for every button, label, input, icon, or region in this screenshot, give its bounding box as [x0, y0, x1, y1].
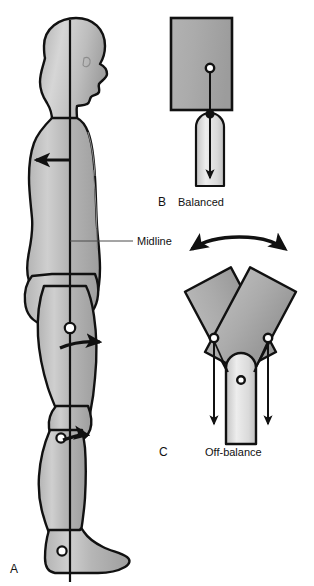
- torso-silhouette: [27, 118, 100, 299]
- mass-block-b: [171, 18, 232, 110]
- midline-label: Midline: [137, 235, 172, 247]
- panel-c-caption: Off-balance: [205, 446, 262, 458]
- panel-c-group: C Off-balance: [159, 237, 296, 459]
- sway-arrow: [192, 237, 285, 249]
- panel-c-letter: C: [159, 445, 168, 459]
- support-center-dot-c: [237, 376, 245, 384]
- support-center-dot-b: [206, 110, 213, 117]
- balance-diagram-svg: A Midline B Balanced: [0, 0, 314, 586]
- panel-a-group: A: [10, 18, 129, 582]
- mass-center-dot-b: [206, 64, 214, 72]
- panel-b-group: B Balanced: [158, 18, 232, 209]
- support-post-c: [226, 353, 256, 444]
- panel-b-caption: Balanced: [178, 196, 224, 208]
- mass-center-dot-c-left: [210, 334, 218, 342]
- hip-joint: [65, 323, 75, 333]
- lower-leg-silhouette: [39, 430, 86, 538]
- panel-b-letter: B: [158, 195, 166, 209]
- panel-a-letter: A: [10, 562, 18, 576]
- ankle-joint: [57, 546, 66, 555]
- mass-center-dot-c-right: [264, 334, 272, 342]
- thigh-silhouette: [38, 286, 97, 414]
- head-silhouette: [40, 18, 107, 120]
- figure-container: A Midline B Balanced: [0, 0, 314, 586]
